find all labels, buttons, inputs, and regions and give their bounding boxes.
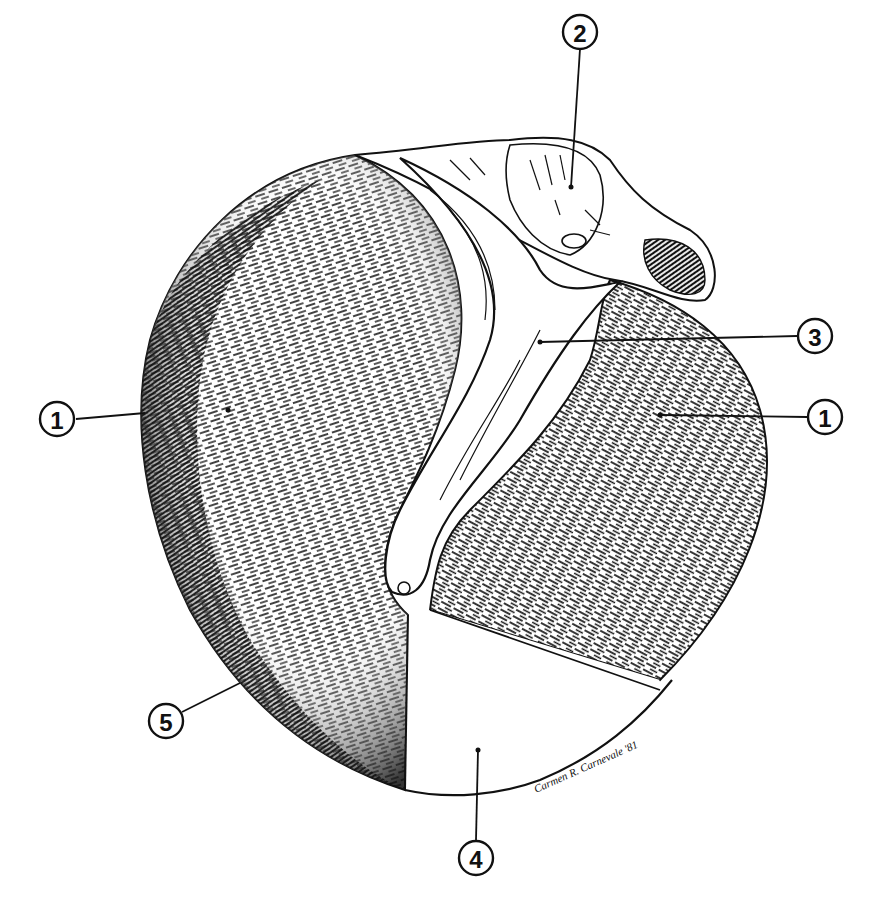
callout-label: 1	[50, 407, 63, 434]
callout-label: 1	[818, 405, 831, 432]
illustration: 1 2 3 1 5	[0, 0, 879, 914]
callout-label: 4	[469, 846, 483, 873]
callout-label: 5	[159, 709, 172, 736]
callout-label: 2	[573, 20, 586, 47]
callout-5: 5	[149, 683, 240, 738]
callout-label: 3	[808, 324, 821, 351]
